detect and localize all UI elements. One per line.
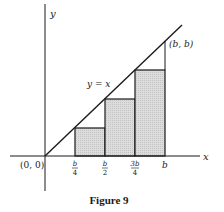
point-label: (b, b) — [169, 39, 194, 49]
svg-text:b: b — [103, 160, 108, 168]
svg-text:3b: 3b — [131, 160, 140, 168]
origin-label: (0, 0) — [20, 160, 44, 170]
svg-text:4: 4 — [73, 169, 78, 177]
svg-text:4: 4 — [133, 169, 138, 177]
figure-canvas: y x (0, 0) y = x (b, b) b 4 b 2 3b 4 b F… — [0, 0, 224, 212]
rectangle-1 — [75, 128, 105, 156]
svg-text:2: 2 — [103, 169, 107, 177]
line-label: y = x — [86, 79, 110, 89]
x-axis-label: x — [203, 151, 209, 162]
figure-caption: Figure 9 — [89, 194, 129, 206]
y-axis-label: y — [49, 8, 56, 19]
rectangle-2 — [105, 99, 135, 156]
tick-b: b — [162, 160, 168, 170]
svg-text:b: b — [162, 160, 168, 170]
svg-text:b: b — [73, 160, 78, 168]
tick-b-over-4: b 4 — [72, 160, 78, 177]
tick-3b-over-4: 3b 4 — [131, 160, 140, 177]
tick-b-over-2: b 2 — [102, 160, 108, 177]
rectangle-3 — [135, 70, 165, 156]
